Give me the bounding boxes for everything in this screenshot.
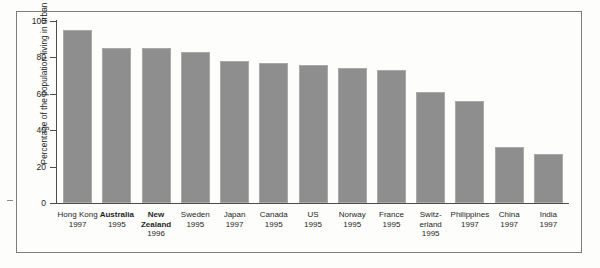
y-axis-tick-label: 0 xyxy=(12,198,46,208)
bar xyxy=(455,101,484,203)
x-axis-label-name-line2: erland xyxy=(420,220,442,229)
y-axis-title-holder: Percentage of the population living in u… xyxy=(22,20,36,204)
y-axis-tick xyxy=(50,167,56,168)
x-axis-label-year: 1996 xyxy=(133,229,178,239)
bar xyxy=(220,61,249,203)
y-axis-tick-label: 40 xyxy=(12,125,46,135)
x-axis-label-year: 1995 xyxy=(408,229,453,239)
x-axis-label-name: Switz- xyxy=(420,210,442,219)
bar xyxy=(338,68,367,203)
bar xyxy=(259,63,288,203)
y-axis-tick-label-wrap: 0 xyxy=(10,203,46,204)
y-axis-tick-label-wrap: 60 xyxy=(10,94,46,95)
bar xyxy=(416,92,445,203)
bar xyxy=(102,48,131,203)
y-axis-tick-label-wrap: 40 xyxy=(10,130,46,131)
y-axis-tick xyxy=(50,203,56,204)
x-axis-label-name: Australia xyxy=(100,210,134,219)
figure-canvas: Percentage of the population living in u… xyxy=(0,0,600,268)
y-axis-tick xyxy=(50,57,56,58)
y-axis-tick xyxy=(50,21,56,22)
x-axis-label-name: Norway xyxy=(339,210,366,219)
x-axis-label-name: India xyxy=(540,210,557,219)
y-axis-tick-label-wrap: 80 xyxy=(10,57,46,58)
x-axis-label: India1997 xyxy=(526,210,571,229)
x-axis-label-name-line2: Zealand xyxy=(141,220,171,229)
x-axis-label-name: Hong Kong xyxy=(58,210,98,219)
bar xyxy=(63,30,92,203)
y-axis-tick xyxy=(50,130,56,131)
bar xyxy=(142,48,171,203)
y-axis-tick xyxy=(50,94,56,95)
x-axis-label-name: Philippines xyxy=(451,210,490,219)
bar xyxy=(495,147,524,203)
bar xyxy=(181,52,210,203)
x-axis-label-name: US xyxy=(307,210,318,219)
x-axis-label-name: Canada xyxy=(260,210,288,219)
x-axis-line xyxy=(56,203,569,204)
x-axis-label-name: Japan xyxy=(224,210,246,219)
y-axis-tick-label: 60 xyxy=(12,89,46,99)
x-axis-label-name: France xyxy=(379,210,404,219)
y-axis-tick-label-wrap: 20 xyxy=(10,167,46,168)
y-axis-line xyxy=(56,20,57,204)
y-axis-tick-label: 100 xyxy=(12,16,46,26)
x-axis-label-name: China xyxy=(499,210,520,219)
x-axis-label-name: New xyxy=(148,210,164,219)
x-axis-label-name: Sweden xyxy=(181,210,210,219)
bar xyxy=(377,70,406,203)
y-axis-tick-label-wrap: 100 xyxy=(10,21,46,22)
y-axis-tick-label: 20 xyxy=(12,162,46,172)
bar xyxy=(534,154,563,203)
x-axis-label-year: 1997 xyxy=(526,220,571,230)
bar xyxy=(299,65,328,203)
y-axis-tick-label: 80 xyxy=(12,52,46,62)
